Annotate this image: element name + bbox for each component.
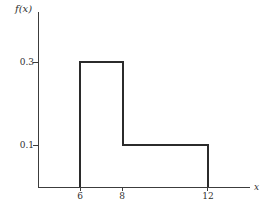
y-tick-label-0-3: 0.3 <box>2 56 34 68</box>
pdf-step-function-figure: f(x) x 0.3 0.1 6 8 12 <box>0 0 271 211</box>
pdf-outline-path <box>80 62 207 187</box>
y-axis-title: f(x) <box>15 3 32 15</box>
y-tick-label-0-1: 0.1 <box>2 139 34 151</box>
x-tick-label-12: 12 <box>200 190 216 202</box>
x-axis-title: x <box>254 181 259 193</box>
x-tick-label-6: 6 <box>74 190 86 202</box>
chart-canvas <box>0 0 271 211</box>
x-tick-label-8: 8 <box>116 190 128 202</box>
